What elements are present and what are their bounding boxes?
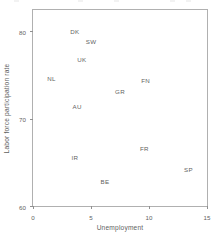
artifact-mark <box>114 0 119 2</box>
data-point-label: FR <box>140 145 149 152</box>
data-point-label: FN <box>141 77 150 84</box>
artifact-mark <box>78 0 83 2</box>
x-axis-tick: 10 <box>149 206 150 209</box>
data-point-label: DK <box>70 28 79 35</box>
x-axis-title: Unemployment <box>32 224 208 231</box>
data-point-label: NL <box>47 75 55 82</box>
y-axis-tick-label: 80 <box>19 28 26 35</box>
data-point-label: AU <box>73 103 82 110</box>
x-axis-tick-label: 10 <box>146 214 153 221</box>
data-point-label: BE <box>101 177 110 184</box>
y-axis-tick: 70 <box>30 119 33 120</box>
data-point-label: SW <box>86 37 96 44</box>
data-point-label: SP <box>184 166 193 173</box>
y-axis-title-label: Labor force participation rate <box>3 63 10 153</box>
scatter-plot-figure: Labor force participation rate 607080051… <box>0 0 216 244</box>
cropped-toolbar-artifact <box>0 0 216 4</box>
data-point-label: GR <box>115 87 125 94</box>
y-axis-tick-label: 70 <box>19 116 26 123</box>
x-axis-tick: 15 <box>207 206 208 209</box>
y-axis-title: Labor force participation rate <box>2 9 11 207</box>
data-point-label: IR <box>71 154 78 161</box>
x-axis-tick-label: 0 <box>31 214 34 221</box>
artifact-mark <box>14 0 19 2</box>
x-axis-tick: 0 <box>33 206 34 209</box>
y-axis-tick: 80 <box>30 31 33 32</box>
x-axis-tick-label: 5 <box>89 214 92 221</box>
x-axis-tick-label: 15 <box>204 214 211 221</box>
plot-area: 607080051015DKSWUKNLFNGRAUFRIRSPBE <box>32 9 208 207</box>
artifact-mark <box>186 0 191 2</box>
y-axis-tick-label: 60 <box>19 203 26 210</box>
artifact-mark <box>170 0 175 2</box>
data-point-label: UK <box>77 56 86 63</box>
x-axis-tick: 5 <box>91 206 92 209</box>
